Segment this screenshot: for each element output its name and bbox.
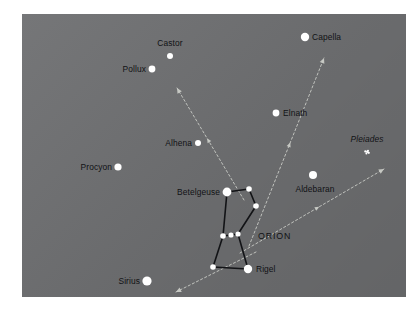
star-label-rigel: Rigel [256,265,276,273]
star-label-betelgeuse: Betelgeuse [177,188,220,196]
star-pleiades-cluster[interactable] [364,150,370,155]
constellation-line-betelgeuse-mintaka [223,192,227,236]
constellation-label-orion: ORION [258,232,291,241]
sky-panel: CastorPolluxCapellaElnathPleiadesAldebar… [22,14,406,297]
star-bellatrix[interactable] [246,186,252,192]
star-label-pollux: Pollux [123,65,146,73]
pleiades-member-4 [366,151,368,153]
star-betelgeuse[interactable] [223,188,232,197]
guide-line-to-capella [249,58,324,246]
star-alnitak[interactable] [235,231,240,236]
star-label-aldebaran: Aldebaran [295,185,334,193]
constellation-line-alnitak-rigel [238,234,248,269]
star-procyon[interactable] [114,163,121,170]
sky-canvas [22,14,406,297]
guide-arrowhead-to-capella [320,58,325,64]
star-label-sirius: Sirius [118,277,140,285]
star-saiph[interactable] [210,264,216,270]
star-sirius[interactable] [142,276,151,285]
star-orioneast[interactable] [253,203,259,209]
guide-lines-group [176,58,384,292]
star-label-pleiades: Pleiades [351,135,384,143]
star-label-elnath: Elnath [283,109,307,117]
star-label-alhena: Alhena [165,139,192,147]
star-label-procyon: Procyon [81,163,112,171]
star-alnilam[interactable] [228,232,233,237]
constellation-line-mintaka-saiph [213,236,223,267]
guide-arrowhead-to-pollux [207,138,211,143]
star-mintaka[interactable] [220,233,226,239]
star-chart: CastorPolluxCapellaElnathPleiadesAldebar… [0,0,417,318]
star-aldebaran[interactable] [309,171,317,179]
constellation-line-saiph-rigel [213,267,248,269]
star-rigel[interactable] [244,265,252,273]
star-castor[interactable] [167,53,173,59]
constellation-line-orioneast-alnitak [238,206,256,234]
star-alhena[interactable] [195,140,201,146]
star-capella[interactable] [301,33,309,41]
star-pollux[interactable] [149,66,156,73]
star-label-castor: Castor [157,39,182,47]
star-elnath[interactable] [273,110,280,117]
constellation-lines-group [213,189,256,269]
star-label-capella: Capella [312,33,341,41]
